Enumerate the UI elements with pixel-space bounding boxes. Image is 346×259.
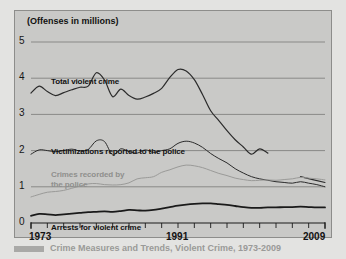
x-tick-label-1991: 1991: [166, 231, 188, 242]
x-tick-label-1973: 1973: [29, 231, 51, 242]
y-tick-label-2: 2: [19, 144, 25, 155]
x-tick-label-2009: 2009: [303, 231, 325, 242]
series-label-0: Total violent crime: [51, 77, 119, 86]
series-paths: [31, 69, 325, 216]
series-label-1: Victimizations reported to the police: [51, 147, 185, 156]
series-label-2-line1: Crimes recorded by: [51, 170, 124, 179]
figure-caption: Crime Measures and Trends, Violent Crime…: [14, 243, 332, 257]
y-tick-label-1: 1: [19, 180, 25, 191]
chart-panel: (Offenses in millions) 012345 1973199120…: [14, 10, 332, 238]
y-tick-label-4: 4: [19, 71, 25, 82]
y-tick-label-5: 5: [19, 35, 25, 46]
figure-page: (Offenses in millions) 012345 1973199120…: [0, 0, 346, 259]
y-tick-label-3: 3: [19, 107, 25, 118]
caption-text: Crime Measures and Trends, Violent Crime…: [50, 243, 281, 253]
series-label-2-line2: the police: [51, 180, 87, 189]
y-tick-label-0: 0: [19, 216, 25, 227]
series-label-3: Arrests for violent crime: [51, 223, 141, 232]
caption-swatch: [14, 246, 44, 252]
series-line-3: [31, 203, 325, 215]
line-chart-svg: [15, 11, 333, 239]
